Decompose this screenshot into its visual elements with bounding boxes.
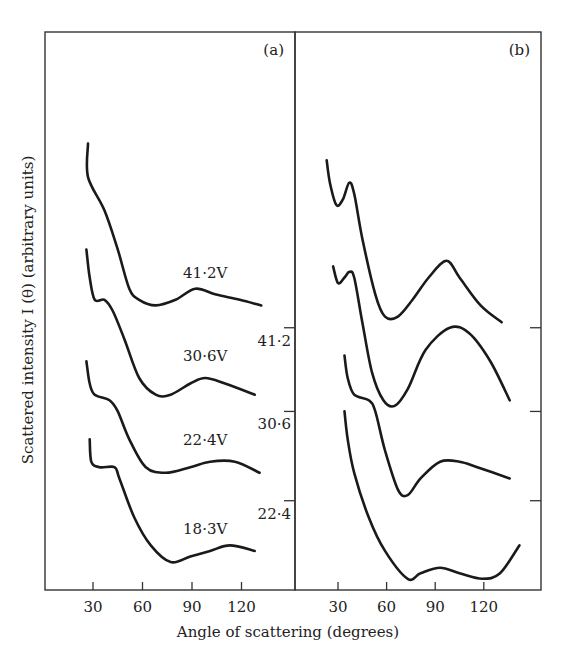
series-label: 41·2V bbox=[183, 264, 228, 282]
series-curve-306V bbox=[86, 250, 254, 397]
x-axis-title: Angle of scattering (degrees) bbox=[176, 623, 399, 641]
x-tick-label: 120 bbox=[469, 598, 498, 616]
series-label: 22·4V bbox=[183, 431, 228, 449]
series-curve-224V bbox=[86, 361, 259, 473]
series-label: 18·3V bbox=[183, 520, 228, 538]
series-curve-412V bbox=[327, 160, 502, 322]
panel-b-frame bbox=[295, 32, 541, 590]
x-tick-label: 30 bbox=[83, 598, 102, 616]
offset-tick-label: 30·6 bbox=[258, 415, 291, 433]
panel-b-label: (b) bbox=[509, 41, 530, 59]
series-curve-412V bbox=[87, 144, 261, 306]
series-curve-183V bbox=[90, 439, 255, 562]
x-tick-label: 120 bbox=[227, 598, 256, 616]
offset-tick-label: 41·2 bbox=[258, 332, 291, 350]
series-curve-224V bbox=[345, 356, 510, 497]
y-axis-title: Scattered intensity I (θ) (arbitrary uni… bbox=[19, 156, 37, 465]
offset-tick-label: 22·4 bbox=[258, 505, 291, 523]
x-tick-label: 90 bbox=[182, 598, 201, 616]
x-tick-label: 60 bbox=[133, 598, 152, 616]
chart: 30609012041·2V30·6V22·4V18·3V 3060901204… bbox=[0, 0, 563, 655]
panel-a: 30609012041·2V30·6V22·4V18·3V bbox=[83, 144, 261, 616]
x-tick-label: 30 bbox=[328, 598, 347, 616]
series-curve-183V bbox=[345, 411, 520, 579]
panel-b: 30609012041·230·622·4 bbox=[258, 160, 541, 616]
panel-a-label: (a) bbox=[263, 41, 284, 59]
x-tick-label: 90 bbox=[426, 598, 445, 616]
x-tick-label: 60 bbox=[377, 598, 396, 616]
series-label: 30·6V bbox=[183, 347, 228, 365]
